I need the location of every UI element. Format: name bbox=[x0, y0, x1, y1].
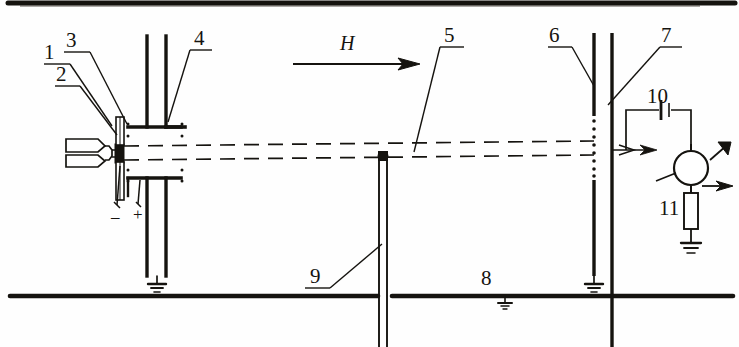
label-6: 6 bbox=[549, 25, 560, 46]
label-5: 5 bbox=[444, 25, 455, 46]
label-10: 10 bbox=[647, 86, 668, 107]
label-11: 11 bbox=[659, 198, 679, 219]
label-8: 8 bbox=[481, 268, 492, 289]
deflector-electrode-lower bbox=[128, 178, 181, 276]
leader-lines bbox=[44, 47, 682, 288]
polarity-plus-label: + bbox=[133, 206, 143, 223]
circuit-ground-symbol bbox=[681, 243, 701, 253]
polarity-lead-positive bbox=[136, 180, 141, 207]
detector-meter-circle bbox=[674, 151, 708, 185]
polarity-minus-label: – bbox=[111, 208, 120, 225]
figure-canvas: 1 2 3 4 5 6 7 8 9 10 11 H – + bbox=[0, 0, 739, 347]
label-9: 9 bbox=[310, 266, 321, 287]
meter-input-tick bbox=[656, 173, 676, 181]
label-3: 3 bbox=[66, 30, 77, 51]
deflector-ground-symbol bbox=[148, 276, 166, 292]
field-label-H: H bbox=[340, 33, 354, 53]
molecular-beam-upper-ray bbox=[124, 141, 594, 146]
battery-circuit-loop bbox=[619, 110, 691, 155]
label-7: 7 bbox=[661, 25, 672, 46]
beam-collimation-dots-left bbox=[127, 123, 130, 183]
source-aperture bbox=[115, 144, 124, 163]
label-2: 2 bbox=[56, 64, 67, 85]
resistor-symbol bbox=[684, 193, 698, 229]
meter-output-arrow-diagonal bbox=[710, 142, 731, 160]
diagram-vector-layer bbox=[0, 0, 739, 347]
detector-grid-ground-symbol bbox=[585, 276, 603, 292]
molecular-beam-lower-ray bbox=[124, 155, 594, 160]
label-1: 1 bbox=[44, 42, 55, 63]
beam-source-oven bbox=[66, 139, 112, 167]
support-post bbox=[378, 152, 389, 347]
magnetic-field-arrow bbox=[293, 58, 420, 70]
deflector-electrode-upper bbox=[128, 36, 185, 127]
label-4: 4 bbox=[194, 28, 205, 49]
meter-output-arrow-horizontal bbox=[702, 181, 733, 191]
beam-collimation-dots-right bbox=[181, 123, 184, 183]
